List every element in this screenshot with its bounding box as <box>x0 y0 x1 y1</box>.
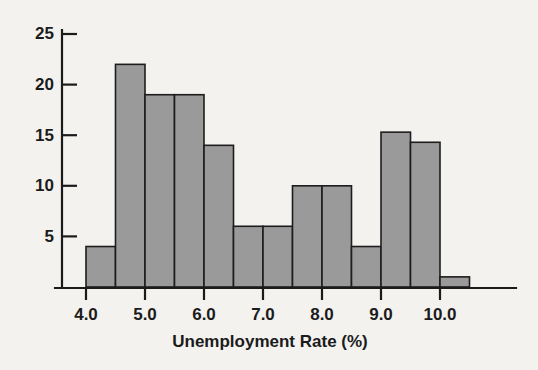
x-tick-label: 4.0 <box>74 305 98 324</box>
histogram-bar <box>440 277 470 287</box>
histogram-bar <box>175 95 205 287</box>
y-tick-label: 5 <box>45 227 54 246</box>
histogram-bar <box>352 247 382 287</box>
histogram-bar <box>322 186 352 287</box>
histogram-bar <box>116 64 146 287</box>
histogram-bar <box>86 247 116 287</box>
y-tick-label: 20 <box>35 75 54 94</box>
x-tick-label: 6.0 <box>192 305 216 324</box>
y-axis-ticks: 510152025 <box>35 24 77 245</box>
y-tick-label: 25 <box>35 24 54 43</box>
histogram-bars <box>86 64 470 287</box>
x-tick-label: 8.0 <box>310 305 334 324</box>
y-tick-label: 15 <box>35 126 54 145</box>
histogram-bar <box>381 132 411 287</box>
x-tick-label: 9.0 <box>369 305 393 324</box>
histogram-plot: 510152025 4.05.06.07.08.09.010.0 Unemplo… <box>0 0 538 370</box>
histogram-bar <box>145 95 175 287</box>
histogram-bar <box>234 226 264 287</box>
histogram-bar <box>204 145 234 287</box>
histogram-bar <box>411 142 441 287</box>
x-tick-label: 10.0 <box>423 305 456 324</box>
x-axis-title: Unemployment Rate (%) <box>172 332 368 351</box>
x-tick-label: 5.0 <box>133 305 157 324</box>
x-tick-label: 7.0 <box>251 305 275 324</box>
histogram-figure: 510152025 4.05.06.07.08.09.010.0 Unemplo… <box>0 0 538 370</box>
histogram-bar <box>293 186 323 287</box>
x-axis-ticks: 4.05.06.07.08.09.010.0 <box>74 288 456 324</box>
histogram-bar <box>263 226 293 287</box>
y-tick-label: 10 <box>35 176 54 195</box>
